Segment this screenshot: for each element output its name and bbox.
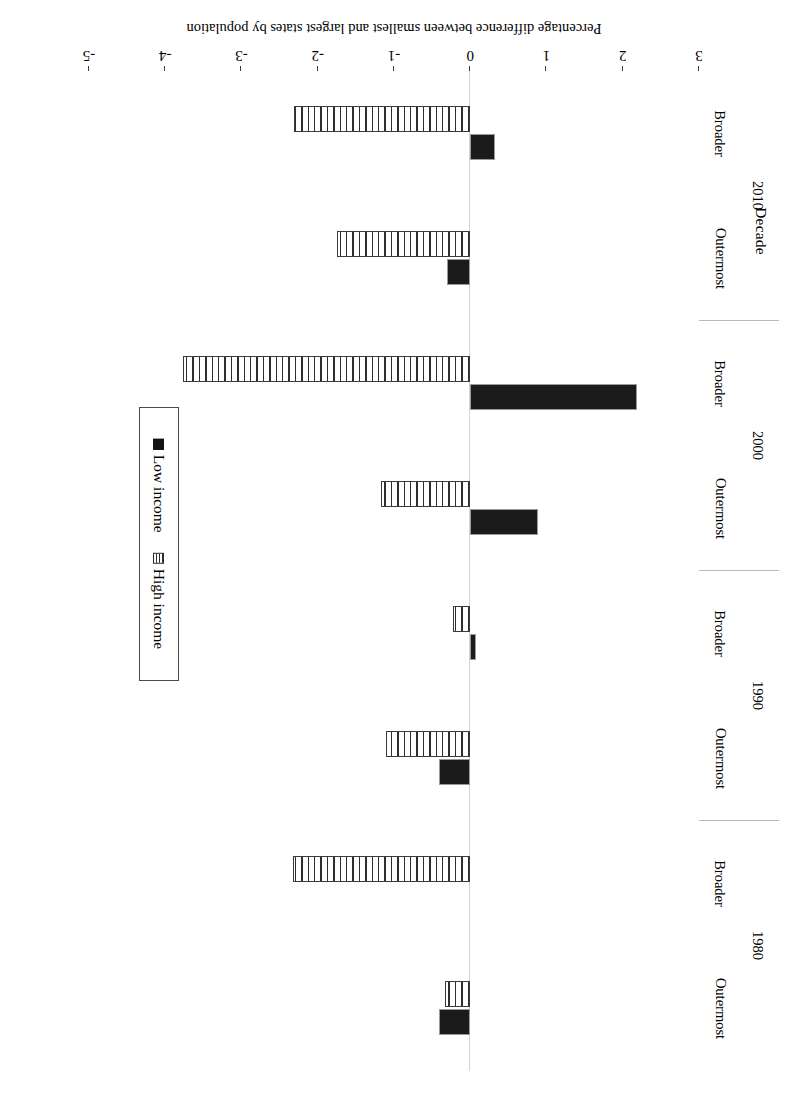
subcategory-label-text: Broader [711, 860, 728, 907]
bar-high-income-1990-outermost [386, 732, 471, 758]
subcategory-label-text: Broader [711, 110, 728, 157]
bar-low-income-2000-outermost [470, 510, 538, 536]
value-axis-tick-label: 0 [450, 47, 490, 64]
value-axis-tick-label: 1 [527, 47, 567, 64]
value-axis-tick-label: -1 [374, 47, 414, 64]
bar-low-income-2000-broader [470, 385, 637, 411]
decade-separator [699, 820, 779, 821]
decade-label-1980: 1980 [741, 821, 775, 1071]
bar-high-income-1990-broader [453, 607, 470, 633]
bar-high-income-2010-outermost [337, 232, 470, 258]
subcategory-label-outermost: Outermost [699, 479, 741, 539]
bar-low-income-1980-outermost [439, 1010, 470, 1036]
legend-label-low-income: Low income [150, 455, 168, 533]
bar-low-income-2010-broader [470, 135, 494, 161]
subcategory-label-broader: Broader [699, 604, 741, 664]
value-axis-tick [469, 66, 470, 71]
subcategory-label-outermost: Outermost [699, 979, 741, 1039]
zero-axis-line [469, 71, 470, 1071]
value-axis-tick [698, 66, 699, 71]
plot-region [89, 71, 699, 1071]
bar-low-income-2010-outermost [447, 260, 471, 286]
decade-label-text: 2010 [750, 182, 767, 211]
value-axis-tick [317, 66, 318, 71]
subcategory-label-text: Outermost [712, 478, 729, 539]
bar-high-income-1980-outermost [445, 982, 470, 1008]
decade-label-2000: 2000 [741, 321, 775, 571]
value-axis-tick [164, 66, 165, 71]
decade-separator [699, 570, 779, 571]
value-axis-tick [88, 66, 89, 71]
decade-label-text: 1980 [750, 932, 767, 961]
value-axis-tick-label: -4 [145, 47, 185, 64]
bar-high-income-2010-broader [294, 107, 470, 133]
value-axis-tick-label: 2 [603, 47, 643, 64]
subcategory-label-broader: Broader [699, 104, 741, 164]
decade-label-2010: 2010 [741, 71, 775, 321]
subcategory-label-broader: Broader [699, 854, 741, 914]
legend-swatch-low-income-icon [154, 439, 165, 450]
subcategory-label-outermost: Outermost [699, 229, 741, 289]
value-axis-tick [241, 66, 242, 71]
bar-low-income-1990-broader [470, 635, 476, 661]
subcategory-label-text: Outermost [712, 728, 729, 789]
chart-area: Decade 1980 1990 2000 2010 OutermostBroa… [0, 0, 787, 1111]
subcategory-label-text: Broader [711, 360, 728, 407]
decade-label-text: 1990 [750, 682, 767, 711]
value-axis-tick [546, 66, 547, 71]
value-axis-tick-label: -5 [69, 47, 109, 64]
subcategory-label-broader: Broader [699, 354, 741, 414]
value-axis-title-text: Percentage difference between smallest a… [187, 21, 602, 37]
bar-high-income-1980-broader [293, 857, 471, 883]
decade-separator [699, 320, 779, 321]
bar-high-income-2000-broader [183, 357, 470, 383]
decade-label-1990: 1990 [741, 571, 775, 821]
value-axis-tick-label: -2 [298, 47, 338, 64]
value-axis-title: Percentage difference between smallest a… [89, 20, 699, 37]
legend-item-high-income[interactable]: High income [150, 553, 168, 650]
value-axis: 3210-1-2-3-4-5 [89, 37, 699, 71]
legend-swatch-high-income-icon [154, 553, 165, 564]
legend-item-low-income[interactable]: Low income [150, 439, 168, 533]
value-axis-tick [393, 66, 394, 71]
legend-inner: Low income High income [150, 439, 168, 649]
decade-label-text: 2000 [750, 432, 767, 461]
legend-label-high-income: High income [150, 569, 168, 650]
subcategory-label-text: Outermost [712, 228, 729, 289]
value-axis-tick-label: -3 [222, 47, 262, 64]
bar-high-income-2000-outermost [381, 482, 470, 508]
subcategory-label-text: Broader [711, 610, 728, 657]
subcategory-label-outermost: Outermost [699, 729, 741, 789]
value-axis-tick-label: 3 [679, 47, 719, 64]
rotated-figure-container: Decade 1980 1990 2000 2010 OutermostBroa… [0, 0, 787, 1111]
subcategory-label-text: Outermost [712, 978, 729, 1039]
legend: Low income High income [139, 407, 179, 681]
value-axis-tick [622, 66, 623, 71]
bar-low-income-1990-outermost [439, 760, 470, 786]
